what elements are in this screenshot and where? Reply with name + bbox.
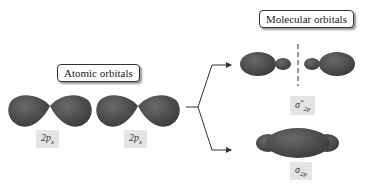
label-sub: 2p (300, 170, 307, 178)
orbital-diagram-canvas (0, 0, 381, 193)
bonding-orbital (256, 128, 339, 158)
label-sub: x (139, 138, 142, 146)
atomic-label-2: 2px (124, 130, 147, 148)
label-sub: 2p (303, 105, 310, 113)
bonding-label: σ2p (290, 162, 312, 180)
antibonding-orbital (240, 44, 355, 86)
label-main: 2p (129, 132, 139, 143)
atomic-label-1: 2px (36, 130, 59, 148)
branch-arrows (186, 65, 231, 150)
label-sub: x (51, 138, 54, 146)
molecular-orbitals-title: Molecular orbitals (259, 10, 354, 28)
antibonding-label: σ*2p (290, 96, 315, 115)
atomic-orbital-2px-1 (8, 95, 91, 127)
label-main: 2p (41, 132, 51, 143)
atomic-orbital-2px-2 (96, 95, 179, 127)
atomic-orbitals-title: Atomic orbitals (57, 64, 140, 82)
